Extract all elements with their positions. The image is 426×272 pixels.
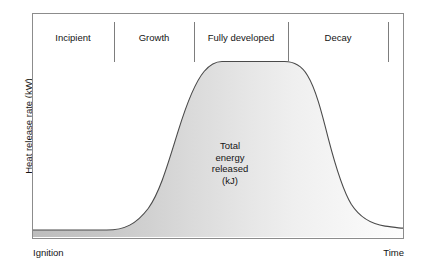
x-axis-end-label: Time — [383, 247, 404, 259]
annotation-line-2: energy — [187, 152, 273, 164]
heat-release-rate-curve — [33, 14, 403, 238]
area-annotation: Total energy released (kJ) — [187, 140, 273, 186]
annotation-line-3: released — [187, 163, 273, 175]
annotation-line-1: Total — [187, 140, 273, 152]
annotation-line-4: (kJ) — [187, 175, 273, 187]
plot-frame: Total energy released (kJ) — [32, 13, 404, 239]
fire-development-curve-figure: Heat release rate (kW) Total energy r — [0, 0, 426, 272]
x-axis-start-label: Ignition — [33, 247, 64, 259]
